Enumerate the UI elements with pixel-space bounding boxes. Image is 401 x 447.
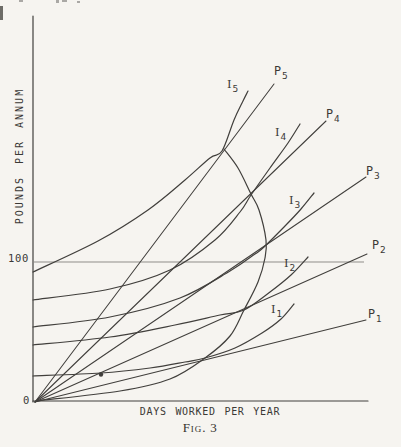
y-axis-title: POUNDS PER ANNUM — [14, 86, 28, 226]
curve-label-I4: I4 — [275, 127, 285, 139]
curve-label-P2: P2 — [372, 240, 385, 252]
curve-label-letter: I — [227, 77, 232, 91]
curve-label-letter: P — [372, 238, 379, 252]
wage-line-P5 — [35, 84, 274, 402]
curve-label-subscript: 4 — [334, 114, 340, 124]
figure-caption: Fig. 3 — [145, 420, 255, 436]
curve-label-letter: I — [284, 256, 289, 270]
y-axis-tick-100: 100 — [8, 252, 29, 264]
curve-label-P5: P5 — [274, 66, 287, 78]
figure-caption-number: 3 — [210, 420, 217, 435]
curve-label-letter: P — [326, 107, 333, 121]
curve-label-letter: I — [271, 302, 276, 316]
x-axis-title: DAYS WORKED PER YEAR — [130, 406, 290, 417]
curve-label-subscript: 5 — [282, 71, 288, 81]
curve-label-subscript: 2 — [380, 245, 386, 255]
figure-caption-label: Fig. — [183, 420, 207, 435]
curve-label-letter: P — [366, 164, 373, 178]
curve-label-I2: I2 — [284, 258, 294, 270]
curve-label-subscript: 3 — [374, 171, 380, 181]
curve-label-P3: P3 — [366, 166, 379, 178]
wage-line-P2 — [35, 254, 367, 402]
curve-label-I1: I1 — [271, 304, 281, 316]
curve-label-subscript: 5 — [233, 84, 239, 94]
curve-label-P4: P4 — [326, 109, 339, 121]
indifference-curve-I5 — [33, 91, 248, 272]
figure-canvas — [0, 0, 401, 447]
curve-label-letter: I — [289, 193, 294, 207]
curve-label-subscript: 1 — [277, 309, 283, 319]
curve-label-subscript: 3 — [295, 200, 301, 210]
curve-label-letter: P — [274, 64, 281, 78]
curve-label-subscript: 4 — [281, 132, 287, 142]
dot-marker — [99, 372, 103, 376]
curve-label-letter: P — [368, 307, 375, 321]
curve-label-subscript: 1 — [376, 314, 382, 324]
curve-label-I3: I3 — [289, 195, 299, 207]
scanned-figure-page: POUNDS PER ANNUM DAYS WORKED PER YEAR 10… — [0, 0, 401, 447]
origin-label: 0 — [23, 394, 30, 406]
curve-label-letter: I — [275, 125, 280, 139]
wage-line-P3 — [35, 177, 366, 402]
curve-label-subscript: 2 — [290, 263, 296, 273]
curve-label-I5: I5 — [227, 79, 237, 91]
supply-locus-curve — [36, 149, 266, 401]
curve-label-P1: P1 — [368, 309, 381, 321]
